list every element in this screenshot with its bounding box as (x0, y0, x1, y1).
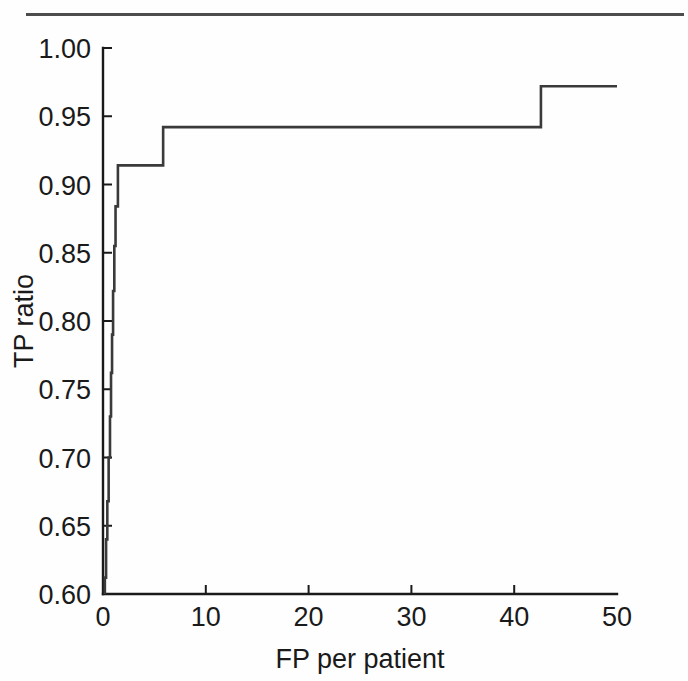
x-tick-label: 0 (95, 602, 110, 632)
froc-curve-line (105, 86, 617, 594)
figure-page: 0.600.650.700.750.800.850.900.951.00 010… (0, 0, 688, 681)
y-tick-label: 0.95 (38, 102, 91, 132)
horizontal-rule (26, 13, 684, 16)
y-axis-title: TP ratio (9, 274, 39, 368)
axes-spines (103, 48, 617, 594)
x-tick-label: 10 (191, 602, 221, 632)
y-tick-label: 0.90 (38, 171, 91, 201)
x-tick-label: 30 (396, 602, 426, 632)
x-tick-label: 50 (602, 602, 632, 632)
x-axis-title: FP per patient (275, 644, 445, 674)
x-tick-label: 40 (499, 602, 529, 632)
y-tick-label: 0.75 (38, 375, 91, 405)
x-axis-ticks: 01020304050 (95, 585, 632, 632)
x-tick-label: 20 (294, 602, 324, 632)
chart-canvas: 0.600.650.700.750.800.850.900.951.00 010… (0, 20, 688, 681)
y-tick-label: 1.00 (38, 34, 91, 64)
froc-chart-figure: 0.600.650.700.750.800.850.900.951.00 010… (0, 20, 688, 681)
y-tick-label: 0.70 (38, 444, 91, 474)
y-tick-label: 0.60 (38, 580, 91, 610)
y-axis-ticks: 0.600.650.700.750.800.850.900.951.00 (38, 34, 112, 610)
y-tick-label: 0.65 (38, 512, 91, 542)
y-tick-label: 0.85 (38, 239, 91, 269)
y-tick-label: 0.80 (38, 307, 91, 337)
